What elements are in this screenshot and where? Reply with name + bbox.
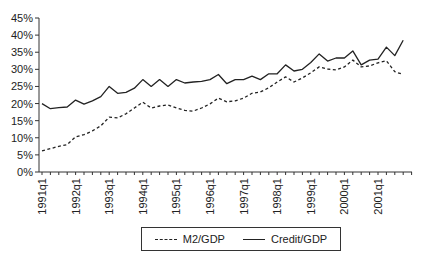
x-tick-label: 1992q1 <box>70 178 82 215</box>
x-tick-label: 2001q1 <box>372 178 384 215</box>
x-tick-label: 1997q1 <box>238 178 250 215</box>
x-tick-label: 1991q1 <box>36 178 48 215</box>
y-tick-label: 10% <box>11 132 33 144</box>
series-lines <box>42 40 403 151</box>
chart-legend: M2/GDP Credit/GDP <box>141 227 341 251</box>
x-axis: 1991q11992q11993q11994q11995q11996q11997… <box>36 172 412 215</box>
series-line-m2-gdp <box>42 60 403 151</box>
legend-label: Credit/GDP <box>271 233 327 245</box>
dashed-line-swatch-icon <box>155 239 177 240</box>
y-tick-label: 30% <box>11 63 33 75</box>
x-tick-label: 1993q1 <box>103 178 115 215</box>
x-tick-label: 2000q1 <box>338 178 350 215</box>
line-chart: 0%5%10%15%20%25%30%35%40%45% 1991q11992q… <box>0 0 422 225</box>
legend-item-credit-gdp: Credit/GDP <box>243 233 327 245</box>
legend-item-m2-gdp: M2/GDP <box>155 233 225 245</box>
x-tick-label: 1995q1 <box>170 178 182 215</box>
y-axis: 0%5%10%15%20%25%30%35%40%45% <box>11 12 39 178</box>
y-tick-label: 5% <box>17 149 33 161</box>
x-tick-label: 1994q1 <box>137 178 149 215</box>
x-tick-label: 1996q1 <box>204 178 216 215</box>
legend-label: M2/GDP <box>183 233 225 245</box>
y-tick-label: 35% <box>11 46 33 58</box>
y-tick-label: 25% <box>11 80 33 92</box>
series-line-credit-gdp <box>42 40 403 109</box>
solid-line-swatch-icon <box>243 239 265 240</box>
y-tick-label: 45% <box>11 12 33 24</box>
y-tick-label: 40% <box>11 29 33 41</box>
x-tick-label: 1999q1 <box>305 178 317 215</box>
y-tick-label: 0% <box>17 166 33 178</box>
y-tick-label: 15% <box>11 115 33 127</box>
y-tick-label: 20% <box>11 98 33 110</box>
x-tick-label: 1998q1 <box>271 178 283 215</box>
